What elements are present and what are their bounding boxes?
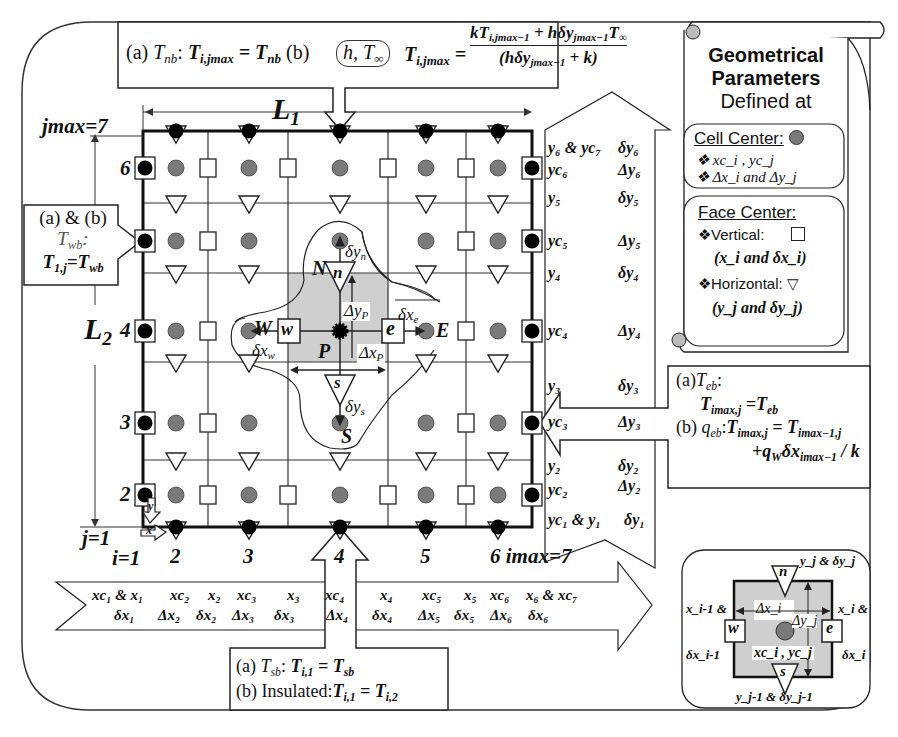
label-dxe: δxe [398, 306, 418, 325]
cell-item-1: ❖ xc_i , yc_j [696, 153, 774, 168]
j1-label: j=1 [82, 528, 110, 549]
detail-e: e [826, 620, 833, 636]
detail-s: s [780, 664, 786, 679]
north-bc-b-lhs: Ti,jmax = [404, 44, 466, 67]
label-W: W [254, 318, 272, 338]
cell-center-heading: Cell Center: [694, 130, 804, 147]
y-axis-label: y [148, 500, 153, 512]
col-label-2: 2 [170, 546, 181, 567]
bottom-boundary-nodes [166, 520, 508, 540]
row-label-2: 2 [120, 484, 131, 505]
L1-label: L1 [272, 94, 300, 128]
label-N: N [312, 258, 326, 278]
detail-center: xc_i , yc_j [752, 646, 814, 660]
label-S: S [341, 426, 352, 446]
node-P [333, 324, 347, 338]
detail-right-1: x_i & [838, 602, 868, 615]
north-bc-fraction: kTi,jmax−1 + hδyjmax−1T∞ (hδyjmax−1 + k) [470, 24, 627, 69]
imax-label: 6 imax=7 [490, 546, 571, 567]
horizontal-face-symbol: ▽ [787, 275, 799, 292]
col-label-5: 5 [420, 546, 431, 567]
x-axis-label: x [146, 524, 152, 536]
row-label-4: 4 [120, 320, 131, 341]
label-P: P [318, 341, 330, 361]
detail-top: y_j & δy_j [800, 554, 855, 567]
cell-item-2: ❖ Δx_i and Δy_j [696, 170, 797, 185]
label-dys: δys [345, 398, 365, 417]
vertical-face-desc: (x_i and δx_i) [714, 250, 807, 266]
L2-label: L2 [84, 314, 112, 348]
detail-w: w [728, 620, 739, 636]
i1-label: i=1 [112, 548, 140, 569]
label-dyn: δyn [345, 243, 366, 262]
label-E: E [436, 320, 449, 340]
vertical-face-symbol [791, 227, 805, 241]
east-bc-text: (a)Teb: Timax,j =Teb (b) qeb:Timax,j = T… [676, 370, 860, 464]
detail-dx: Δx_i [756, 602, 781, 616]
row-label-3: 3 [120, 412, 131, 433]
detail-bottom: y_j-1 & δy_j-1 [736, 690, 813, 703]
label-w: w [281, 320, 293, 338]
row-label-6: 6 [120, 158, 131, 179]
legend-title: Geometrical Parameters Defined at [686, 44, 846, 113]
north-bc-text: (a) Tnb: Ti,jmax = Tnb (b) [126, 42, 309, 65]
detail-dy: Δy_j [792, 614, 817, 628]
label-DxP: ΔxP [357, 344, 385, 363]
horizontal-face-desc: (y_j and δy_j) [712, 300, 803, 316]
label-DyP: ΔyP [342, 302, 370, 321]
label-dxw: δxw [252, 342, 275, 361]
label-s: s [334, 374, 341, 391]
detail-left-2: δx_i-1 [686, 648, 720, 661]
convection-cloud: h, T∞ [336, 40, 390, 67]
vertical-face-label: ❖Vertical: [698, 227, 805, 242]
cell-center-symbol [789, 130, 804, 145]
south-bc-text: (a) Tsb: Ti,1 = Tsb (b) Insulated:Ti,1 =… [236, 655, 398, 705]
col-label-3: 3 [243, 546, 254, 567]
face-center-heading: Face Center: [698, 204, 796, 221]
detail-n: n [779, 564, 787, 579]
jmax-label: jmax=7 [42, 116, 108, 137]
detail-right-2: δx_i [842, 648, 865, 661]
west-bc-text: (a) & (b) Twb: T1,j=Twb [30, 208, 116, 275]
label-e: e [386, 318, 395, 338]
top-boundary-nodes [166, 124, 508, 144]
detail-left-1: x_i-1 & [686, 602, 727, 615]
col-label-4: 4 [334, 546, 345, 567]
horizontal-face-label: ❖Horizontal: ▽ [698, 276, 799, 291]
label-n: n [333, 264, 342, 281]
